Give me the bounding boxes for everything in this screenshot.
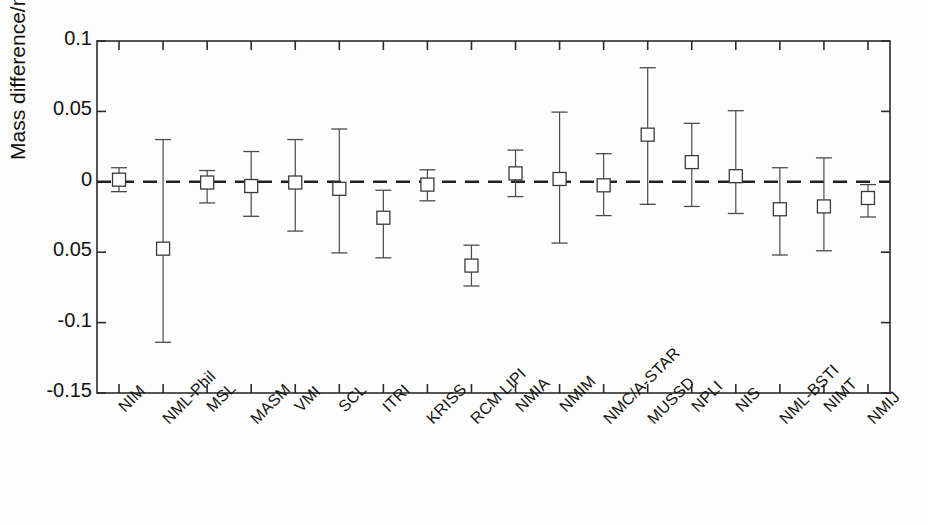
data-point-group [419, 170, 435, 201]
data-marker [157, 242, 170, 255]
data-point-group [596, 154, 612, 216]
data-marker [509, 167, 522, 180]
data-marker [289, 176, 302, 189]
data-marker [553, 172, 566, 185]
data-point-group [728, 111, 744, 214]
axes-frame [97, 41, 890, 393]
data-series-group [111, 68, 876, 343]
axis-frame [97, 41, 890, 393]
data-marker [113, 173, 126, 186]
data-point-group [552, 112, 568, 243]
data-point-group [463, 245, 479, 286]
data-point-group [508, 150, 524, 196]
data-point-group [111, 168, 127, 192]
data-point-group [199, 171, 215, 203]
data-marker [641, 128, 654, 141]
data-point-group [640, 68, 656, 205]
data-point-group [860, 185, 876, 217]
data-point-group [816, 158, 832, 251]
data-marker [333, 182, 346, 195]
data-marker [201, 176, 214, 189]
figure-canvas: Mass difference/mg 0.10.0500.05-0.1-0.15… [0, 0, 928, 525]
data-marker [597, 179, 610, 192]
data-marker [729, 170, 742, 183]
data-point-group [331, 129, 347, 253]
plot-area [0, 0, 928, 525]
data-marker [465, 259, 478, 272]
data-point-group [155, 140, 171, 343]
data-marker [377, 211, 390, 224]
data-marker [817, 200, 830, 213]
data-marker [861, 191, 874, 204]
data-marker [773, 203, 786, 216]
data-point-group [243, 152, 259, 217]
data-marker [421, 178, 434, 191]
data-marker [685, 156, 698, 169]
data-point-group [287, 140, 303, 232]
data-point-group [684, 123, 700, 206]
data-point-group [375, 190, 391, 258]
data-marker [245, 180, 258, 193]
